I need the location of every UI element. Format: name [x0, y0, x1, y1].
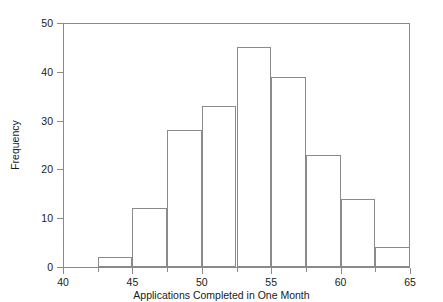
x-axis-minor-tick	[98, 268, 99, 272]
x-axis-tick	[341, 268, 342, 274]
histogram-bar	[202, 106, 237, 267]
y-axis-tick-label: 40	[41, 67, 53, 78]
x-axis-tick	[271, 268, 272, 274]
y-axis-tick	[57, 218, 63, 219]
y-axis-tick	[57, 23, 63, 24]
histogram-bar	[167, 130, 202, 267]
x-axis-minor-tick	[306, 268, 307, 272]
histogram-bar	[132, 208, 167, 267]
x-axis-tick-label: 50	[182, 277, 222, 288]
x-axis-tick	[410, 268, 411, 274]
x-axis-tick	[132, 268, 133, 274]
x-axis-tick-label: 40	[43, 277, 83, 288]
histogram-bar	[237, 47, 272, 267]
bars-layer	[63, 23, 410, 267]
histogram-bar	[375, 247, 410, 267]
y-axis-tick-label: 30	[41, 116, 53, 127]
x-axis-tick-label: 45	[112, 277, 152, 288]
x-axis-title: Applications Completed in One Month	[0, 290, 443, 301]
y-axis-tick-label: 10	[41, 213, 53, 224]
x-axis-minor-tick	[375, 268, 376, 272]
histogram-chart: 01020304050 404550556065 Applications Co…	[0, 0, 443, 302]
x-axis-tick-label: 55	[251, 277, 291, 288]
y-axis-tick-label: 0	[47, 262, 53, 273]
histogram-bar	[306, 155, 341, 267]
y-axis-tick-label: 20	[41, 164, 53, 175]
histogram-bar	[98, 257, 133, 267]
x-axis-tick-label: 65	[390, 277, 430, 288]
x-axis-minor-tick	[237, 268, 238, 272]
y-axis-tick-label: 50	[41, 18, 53, 29]
y-axis-tick	[57, 121, 63, 122]
x-axis-tick	[63, 268, 64, 274]
x-axis-tick-label: 60	[321, 277, 361, 288]
x-axis-tick	[202, 268, 203, 274]
x-axis-minor-tick	[167, 268, 168, 272]
y-axis-title: Frequency	[8, 23, 22, 267]
histogram-bar	[271, 77, 306, 267]
y-axis-tick	[57, 72, 63, 73]
histogram-bar	[341, 199, 376, 267]
y-axis-tick	[57, 169, 63, 170]
